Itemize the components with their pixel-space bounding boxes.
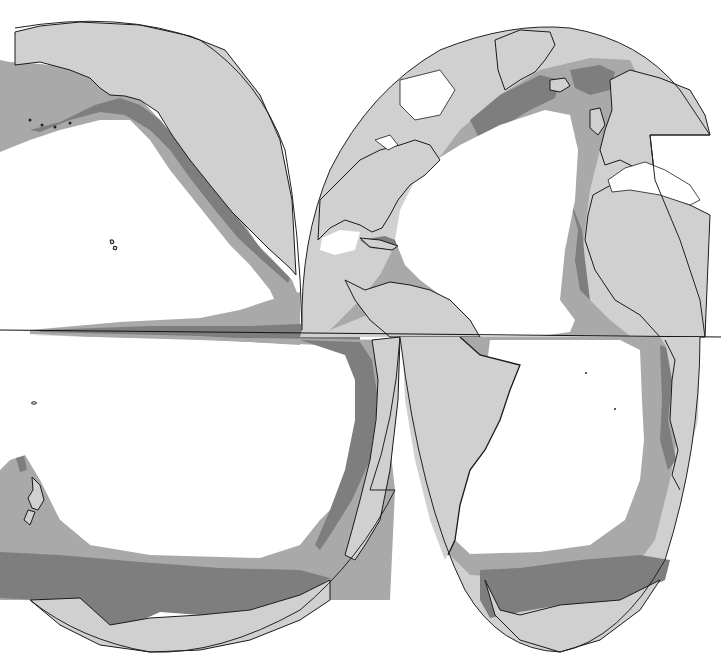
south-pacific-open-ocean <box>30 342 348 548</box>
atlantic-island <box>585 372 587 374</box>
north-atlantic-lobe <box>300 27 710 337</box>
south-pacific-lobe <box>0 335 400 652</box>
north-pacific-lobe <box>0 21 302 330</box>
world-ocean-map <box>0 0 721 665</box>
atlantic-island <box>614 408 616 410</box>
south-atlantic-lobe <box>400 337 700 652</box>
